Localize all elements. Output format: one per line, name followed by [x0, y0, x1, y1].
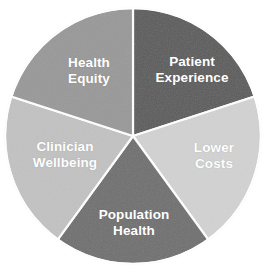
pie-chart-figure: Patient Experience Lower Costs Populatio… — [0, 0, 266, 273]
pie-chart-svg — [0, 0, 266, 273]
